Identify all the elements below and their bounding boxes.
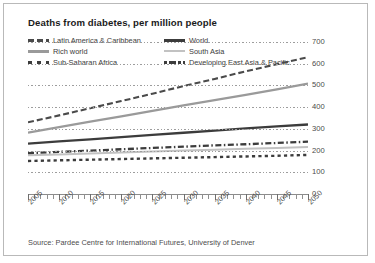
y-axis-tick-label: 700 xyxy=(312,38,325,46)
gridline xyxy=(28,129,308,130)
series-line xyxy=(28,125,308,144)
gridline xyxy=(28,172,308,173)
gridline xyxy=(28,42,308,43)
x-axis-labels: 2005201020152020202520302035204020452050 xyxy=(28,200,328,226)
x-axis-tick xyxy=(84,194,85,199)
x-axis-tick xyxy=(302,194,303,199)
x-axis-tick xyxy=(47,194,48,199)
x-axis-tick xyxy=(264,194,265,199)
x-axis-tick xyxy=(115,194,116,199)
y-axis-tick-label: 200 xyxy=(312,147,325,155)
x-axis-tick xyxy=(233,194,234,199)
chart-title: Deaths from diabetes, per million people xyxy=(28,17,217,28)
series-line xyxy=(28,57,308,122)
plot-area: 0100200300400500600700 xyxy=(28,42,308,194)
x-axis-tick xyxy=(140,194,141,199)
x-axis-tick xyxy=(296,194,297,199)
x-axis-tick xyxy=(109,194,110,199)
x-axis-tick-label: 2050 xyxy=(306,188,324,206)
chart-frame: Deaths from diabetes, per million people… xyxy=(3,3,368,256)
y-axis-tick-label: 500 xyxy=(312,81,325,89)
y-axis-tick-label: 100 xyxy=(312,168,325,176)
x-axis-tick xyxy=(208,194,209,199)
x-axis-tick xyxy=(177,194,178,199)
x-axis-tick xyxy=(146,194,147,199)
x-axis-tick xyxy=(78,194,79,199)
y-axis-tick-label: 300 xyxy=(312,125,325,133)
x-axis-tick xyxy=(240,194,241,199)
y-axis-tick-label: 600 xyxy=(312,60,325,68)
gridline xyxy=(28,107,308,108)
gridline xyxy=(28,64,308,65)
chart-source: Source: Pardee Centre for International … xyxy=(28,238,255,247)
series-lines xyxy=(28,42,308,194)
x-axis-tick xyxy=(202,194,203,199)
x-axis-tick xyxy=(171,194,172,199)
y-axis-tick-label: 400 xyxy=(312,103,325,111)
x-axis-tick xyxy=(271,194,272,199)
series-line xyxy=(28,155,308,161)
gridline xyxy=(28,151,308,152)
x-axis-tick xyxy=(53,194,54,199)
gridline xyxy=(28,85,308,86)
